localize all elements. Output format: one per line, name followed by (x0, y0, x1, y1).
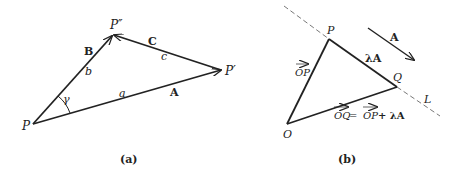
figure-b: P Q O L A λA OP OQ = OP + λA (b) (283, 6, 440, 166)
svg-text:OQ: OQ (334, 110, 350, 121)
lambda-a-label: λA (365, 52, 382, 65)
point-o-label: O (283, 128, 292, 141)
caption-b: (b) (338, 153, 356, 166)
side-b-label: b (85, 65, 92, 78)
vector-b-arrow (33, 36, 112, 124)
svg-text:=: = (349, 110, 357, 121)
vector-b-label: B (84, 45, 93, 58)
svg-text:+ λA: + λA (378, 110, 405, 121)
segment-pq (329, 39, 397, 87)
vector-a-arrow (33, 70, 221, 124)
figure-a: P P″ P′ B b C c a A γ (a) (21, 18, 236, 166)
svg-text:OP: OP (363, 110, 378, 121)
point-p-double-prime-label: P″ (109, 18, 123, 32)
vector-a-label: A (169, 86, 179, 99)
vector-diagram: P P″ P′ B b C c a A γ (a) P Q O L A λA O… (0, 0, 460, 185)
side-c-label: c (161, 50, 167, 63)
point-p-prime-label: P′ (224, 64, 236, 78)
caption-a: (a) (120, 153, 138, 166)
vector-c-label: C (148, 35, 157, 48)
vector-a-label: A (389, 31, 399, 44)
line-l-dashed (284, 6, 329, 39)
equation-oq: OQ = OP + λA (334, 107, 405, 121)
point-p-label: P (21, 119, 31, 133)
vector-c-arrow (114, 35, 221, 70)
line-l-label: L (423, 93, 431, 106)
side-a-label: a (119, 87, 126, 100)
point-p-label: P (326, 24, 335, 37)
angle-gamma-label: γ (63, 93, 70, 106)
vector-op-label: OP (295, 64, 310, 78)
svg-text:OP: OP (295, 67, 310, 78)
point-q-label: Q (393, 71, 402, 84)
